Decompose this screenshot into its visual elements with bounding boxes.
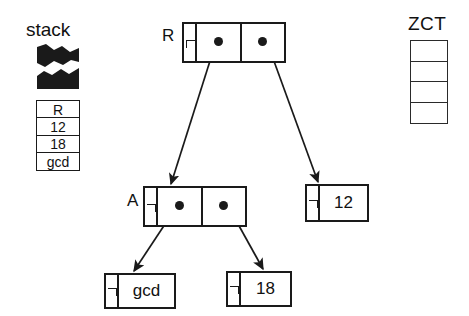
value-cell-content: 12 (320, 186, 367, 220)
stack-cell[interactable]: 12 (36, 117, 80, 136)
pointer-dot-icon (258, 37, 267, 46)
value-tag-mark-icon (309, 200, 318, 208)
cons-slot-car[interactable] (197, 24, 240, 61)
value-cell-12[interactable]: 12 (305, 184, 369, 222)
zct-table (410, 40, 448, 124)
heap-diagram: stack R 12 18 gcd ZCT R A (0, 0, 469, 316)
stack-cell[interactable]: 18 (36, 135, 80, 154)
zct-cell[interactable] (410, 102, 448, 124)
value-tag-mark-icon (108, 288, 117, 296)
stack-title: stack (26, 20, 70, 39)
zct-cell[interactable] (410, 40, 448, 62)
cons-tag-icon (184, 24, 197, 61)
zct-cell[interactable] (410, 61, 448, 83)
stack-cell[interactable]: R (36, 100, 80, 119)
node-r-label: R (162, 27, 174, 44)
zct-cell[interactable] (410, 81, 448, 103)
arrow-r-cdr-to-12 (267, 42, 318, 182)
cons-cell-a[interactable] (143, 186, 247, 227)
zct-title: ZCT (408, 14, 446, 33)
value-tag-icon (228, 273, 241, 305)
cons-tag-mark-icon (147, 204, 156, 212)
value-cell-content: 18 (241, 273, 290, 305)
arrow-r-car-to-a (171, 42, 216, 184)
stack-torn-top-icon (36, 42, 80, 96)
value-cell-18[interactable]: 18 (226, 271, 292, 307)
cons-slot-cdr[interactable] (240, 24, 285, 61)
value-cell-content: gcd (119, 275, 174, 307)
value-tag-icon (106, 275, 119, 307)
value-cell-gcd[interactable]: gcd (104, 273, 176, 309)
node-a-label: A (127, 192, 138, 209)
pointer-dot-icon (214, 37, 223, 46)
stack: R 12 18 gcd (36, 42, 80, 171)
cons-tag-mark-icon (186, 40, 195, 48)
pointer-dot-icon (219, 201, 228, 210)
cons-cell-r[interactable] (182, 22, 286, 63)
value-tag-mark-icon (230, 286, 239, 294)
cons-slot-car[interactable] (158, 188, 201, 225)
cons-tag-icon (145, 188, 158, 225)
value-tag-icon (307, 186, 320, 220)
pointer-dot-icon (175, 201, 184, 210)
stack-cell[interactable]: gcd (36, 152, 80, 171)
cons-slot-cdr[interactable] (201, 188, 246, 225)
